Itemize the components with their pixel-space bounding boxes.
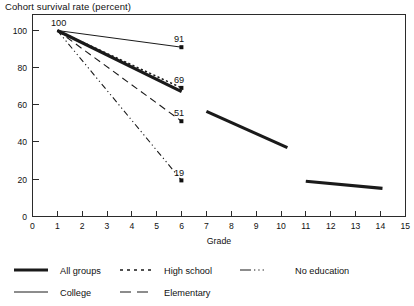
- x-tick-label: 9: [254, 221, 259, 231]
- y-tick-label: 40: [17, 137, 27, 147]
- y-tick-20: 20: [17, 175, 38, 185]
- x-tick-label: 3: [105, 221, 110, 231]
- data-label-19: 19: [174, 168, 184, 178]
- legend-label-high-school: High school: [164, 266, 212, 276]
- legend-label-elementary: Elementary: [164, 288, 211, 298]
- series-no-education: [57, 31, 183, 183]
- y-tick-label: 100: [13, 26, 28, 36]
- all-groups-segment-1: [57, 31, 181, 92]
- chart-legend: All groups High school No education Coll…: [14, 266, 349, 298]
- all-groups-segment-3: [306, 181, 383, 188]
- x-tick-label: 10: [276, 221, 286, 231]
- legend-item-college[interactable]: College: [14, 288, 91, 298]
- x-tick-label: 15: [400, 221, 410, 231]
- all-groups-segment-2: [206, 111, 287, 147]
- y-tick-label: 80: [17, 63, 27, 73]
- x-tick-label: 7: [204, 221, 209, 231]
- series-all-groups: [57, 31, 382, 189]
- x-tick-label: 8: [229, 221, 234, 231]
- x-tick-label: 6: [179, 221, 184, 231]
- data-label-91: 91: [174, 34, 184, 44]
- data-labels: 100 91 69 51 19: [51, 18, 184, 178]
- x-tick-label: 13: [351, 221, 361, 231]
- y-axis: 100 80 60 40 20 0: [13, 26, 39, 222]
- y-tick-60: 60: [17, 100, 38, 110]
- legend-label-no-education: No education: [295, 266, 349, 276]
- data-point-marker: [179, 119, 183, 123]
- data-point-marker: [179, 45, 183, 49]
- x-axis-title: Grade: [207, 236, 232, 246]
- x-tick-label: 11: [301, 221, 310, 231]
- x-tick-label: 12: [326, 221, 336, 231]
- y-tick-0: 0: [22, 212, 38, 222]
- data-label-51: 51: [174, 108, 184, 118]
- data-point-marker: [179, 178, 183, 182]
- data-label-100: 100: [51, 18, 66, 28]
- legend-label-all-groups: All groups: [60, 266, 101, 276]
- y-tick-label: 60: [17, 100, 27, 110]
- legend-item-elementary[interactable]: Elementary: [120, 288, 211, 298]
- y-tick-40: 40: [17, 137, 38, 147]
- x-tick-label: 2: [80, 221, 85, 231]
- x-tick-label: 5: [154, 221, 159, 231]
- x-axis: 0 1 2 3 4 5 6 7 8 9 10 11 12 13 14 15 Gr…: [30, 211, 410, 247]
- x-tick-label: 14: [376, 221, 386, 231]
- y-tick-label: 20: [17, 175, 27, 185]
- cohort-survival-line-chart: 100 80 60 40 20 0: [0, 0, 414, 306]
- x-tick-label: 0: [30, 221, 35, 231]
- legend-item-all-groups[interactable]: All groups: [14, 266, 101, 276]
- x-tick-label: 4: [130, 221, 135, 231]
- legend-item-no-education[interactable]: No education: [240, 266, 349, 276]
- y-tick-label: 0: [22, 212, 27, 222]
- legend-item-high-school[interactable]: High school: [120, 266, 212, 276]
- y-tick-80: 80: [17, 63, 38, 73]
- y-tick-100: 100: [13, 26, 39, 36]
- data-label-69: 69: [174, 75, 184, 85]
- x-tick-label: 1: [55, 221, 60, 231]
- chart-container: Cohort survival rate (percent) 100 80 60…: [0, 0, 414, 306]
- legend-label-college: College: [60, 288, 91, 298]
